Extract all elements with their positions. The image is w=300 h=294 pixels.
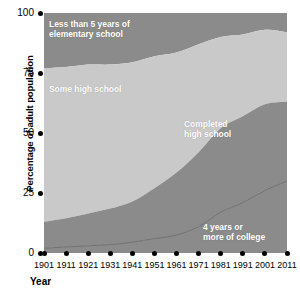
x-tick-dot-1931 (108, 251, 113, 256)
band-label-4-years-or-more-college: 4 years or more of college (203, 222, 265, 243)
band-label-completed-high-school: Completed high school (184, 119, 231, 140)
x-axis-tick-labels: 1901191119211931194119511961197119811991… (0, 261, 300, 275)
y-tick-label-50: 50 (8, 128, 34, 138)
y-tick-dot-50 (38, 131, 43, 136)
x-axis-title: Year (30, 276, 51, 287)
x-tick-dot-1971 (196, 251, 201, 256)
y-tick-label-100: 100 (8, 8, 34, 18)
education-attainment-area-chart: Percentage of adult population 100 75 50… (0, 0, 300, 294)
x-tick-label-2011: 2011 (274, 261, 300, 270)
stacked-area-svg (44, 13, 287, 253)
x-axis-tick-dots (0, 250, 300, 260)
x-tick-dot-1921 (86, 251, 91, 256)
plot-area (44, 13, 287, 253)
x-tick-dot-1961 (174, 251, 179, 256)
x-tick-dot-2001 (262, 251, 267, 256)
y-tick-dot-75 (38, 71, 43, 76)
y-tick-dot-25 (38, 191, 43, 196)
band-label-some-high-school: Some high school (49, 84, 121, 94)
y-tick-dot-100 (38, 11, 43, 16)
x-tick-dot-1991 (240, 251, 245, 256)
x-tick-dot-2011 (285, 251, 290, 256)
band-label-less-than-5-years-elementary: Less than 5 years of elementary school (49, 19, 130, 40)
y-tick-label-75: 75 (8, 68, 34, 78)
x-tick-dot-1901 (42, 251, 47, 256)
x-tick-dot-1911 (64, 251, 69, 256)
y-tick-label-25: 25 (8, 188, 34, 198)
x-tick-dot-1951 (152, 251, 157, 256)
x-tick-dot-1941 (130, 251, 135, 256)
x-tick-dot-1981 (218, 251, 223, 256)
